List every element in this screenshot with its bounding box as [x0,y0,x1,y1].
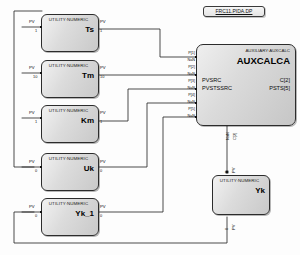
pin-marker-ts-in[interactable] [40,26,43,29]
pin-value-aux-p1: NaN [182,58,195,62]
aux-output-label-c2: C[2] [280,77,290,83]
pin-label-aux-p2: P[2] [184,65,195,69]
utility-block-tm[interactable]: UTILITY:NUMERIC Tm [41,60,99,98]
pin-marker-km-in[interactable] [40,117,43,120]
block-type-label: UTILITY:NUMERIC [42,108,95,113]
pin-value-km-in: 1 [35,119,37,124]
aux-output-label-psts5: PSTS[5] [269,85,290,91]
aux-name-label: AUXCALCA [237,55,290,66]
utility-block-yk[interactable]: UTILITY:NUMERIC Yk [212,175,270,215]
aux-input-label-pvsrc: PVSRC [202,77,221,83]
pin-value-yk-in: 0 [224,171,229,173]
pin-label-aux-p1: P[1] [184,51,195,55]
pin-marker-yk1-in[interactable] [40,211,43,214]
pin-marker-uk-in[interactable] [40,166,43,169]
pin-value-uk-out: 0 [100,168,102,173]
pin-label-yk-in: PV [231,168,236,173]
wire-ts-to-p1 [99,29,196,57]
pin-label-yk1-out: PV [100,204,106,209]
block-type-label: UTILITY:NUMERIC [42,156,95,161]
utility-block-km[interactable]: UTILITY:NUMERIC Km [41,105,99,143]
utility-block-yk1[interactable]: UTILITY:NUMERIC Yk_1 [41,198,99,236]
pin-value-yk-out: 0 [224,228,229,230]
utility-block-uk[interactable]: UTILITY:NUMERIC Uk [41,153,99,191]
pin-label-uk-out: PV [100,159,106,164]
block-name-label: Yk [255,186,265,195]
pin-value-tm-in: 10 [33,74,37,79]
block-name-label: Uk [84,164,94,173]
pin-value-uk-in: 0 [35,168,37,173]
wire-uk-to-p4 [99,103,196,167]
pin-value-ts-out: 1 [100,28,102,33]
block-type-label: UTILITY:NUMERIC [42,17,95,22]
pin-label-tm-in: PV [29,65,35,70]
pin-label-uk-in: PV [29,159,35,164]
pin-label-ts-out: PV [100,19,106,24]
pin-value-aux-p3: NaN [182,86,195,90]
wire-rail-left [14,11,42,167]
pin-label-yk-out: PV [231,225,236,230]
pin-value-aux-p4: NaN [182,100,195,104]
block-type-label: UTILITY:NUMERIC [42,63,95,68]
block-name-label: Km [81,116,94,125]
pin-value-yk1-out: 0 [100,213,102,218]
pin-marker-tm-in[interactable] [40,72,43,75]
auxiliary-block-auxcalca[interactable]: AUXILIARY:AUXCALC AUXCALCA PVSRC PVSTSSR… [196,44,296,126]
pin-label-aux-p3: P[3] [184,79,195,83]
pin-label-ts-in: PV [29,19,35,24]
wire-yk1-to-p5 [99,117,196,212]
block-name-label: Tm [82,71,94,80]
diagram-title-tag[interactable]: FRC11.PIDA.DP [203,6,265,17]
pin-value-km-out: 1 [100,119,102,124]
pin-value-aux-p5: NaN [182,114,195,118]
aux-bottom-pin-label-c2: C[2] [232,133,237,140]
pin-label-aux-p5: P[5] [184,107,195,111]
block-name-label: Yk_1 [75,209,94,218]
utility-block-ts[interactable]: UTILITY:NUMERIC Ts [41,14,99,52]
block-type-label: UTILITY:NUMERIC [42,201,95,206]
block-type-label: UTILITY:NUMERIC [213,178,266,183]
pin-value-ts-in: 1 [35,28,37,33]
pin-value-tm-out: 10 [100,74,104,79]
pin-label-km-out: PV [100,110,106,115]
diagram-canvas: FRC11.PIDA.DP UTILITY:NUMERIC Ts PV 1 PV… [0,0,300,255]
aux-type-label: AUXILIARY:AUXCALC [245,48,290,53]
pin-label-km-in: PV [29,110,35,115]
aux-bottom-pin-value-c2: NaN [225,132,230,140]
pin-value-yk1-in: 0 [35,213,37,218]
aux-input-label-pvstssrc: PVSTSSRC [202,85,232,91]
pin-label-tm-out: PV [100,65,106,70]
pin-value-aux-p2: NaN [182,72,195,76]
block-name-label: Ts [85,25,94,34]
pin-label-aux-p4: P[4] [184,93,195,97]
pin-label-yk1-in: PV [29,204,35,209]
